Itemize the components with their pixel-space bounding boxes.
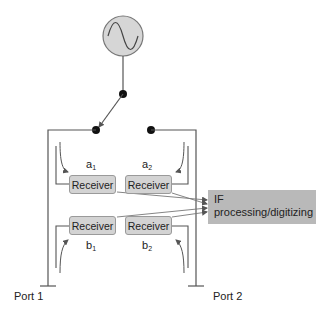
if-block-line2: processing/digitizing [214, 206, 316, 219]
wave-label-a2: a2 [142, 158, 152, 171]
port-1-label: Port 1 [14, 290, 43, 302]
wave-arrow-b1 [60, 240, 68, 273]
b2-to-if-line [172, 212, 207, 217]
port-2-label: Port 2 [213, 290, 242, 302]
wave-arrow-a2 [176, 142, 184, 172]
port1-line [48, 130, 96, 286]
a2-to-if-line [172, 193, 207, 204]
wave-label-b1: b1 [86, 239, 96, 252]
wave-label-a1: a1 [86, 158, 96, 171]
receiver-b1: Receiver [69, 216, 116, 235]
switch-arm [99, 94, 123, 127]
diagram-canvas [0, 0, 332, 313]
receiver-a1: Receiver [69, 175, 116, 194]
if-processing-block: IF processing/digitizing [208, 190, 316, 224]
receiver-b2: Receiver [125, 216, 172, 235]
wave-arrow-b2 [176, 240, 184, 273]
if-block-line1: IF [214, 193, 316, 206]
receiver-a2: Receiver [125, 175, 172, 194]
port2-line [151, 130, 196, 286]
wave-arrow-a1 [60, 142, 68, 172]
wave-label-b2: b2 [142, 239, 152, 252]
coupler-b2 [172, 226, 188, 268]
coupler-b1 [56, 226, 69, 268]
signal-source-icon [103, 16, 143, 56]
coupler-a2 [172, 146, 188, 184]
